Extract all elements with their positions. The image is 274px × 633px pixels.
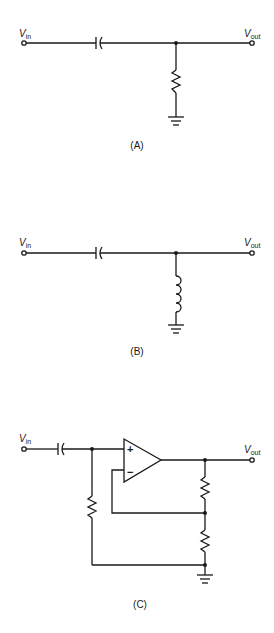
output-terminal — [250, 251, 254, 255]
panel-c: Vin + − Vout — [19, 433, 260, 610]
panel-b: Vin Vout (B) — [19, 237, 260, 357]
vout-label: Vout — [244, 237, 260, 249]
resistor-icon — [88, 496, 96, 518]
input-terminal — [22, 447, 26, 451]
vout-label: Vout — [244, 28, 260, 40]
vout-label: Vout — [244, 444, 260, 456]
panel-a: Vin Vout (A) — [19, 28, 260, 151]
svg-text:+: + — [127, 443, 133, 455]
vin-label: Vin — [19, 28, 31, 40]
vin-label: Vin — [19, 433, 31, 445]
panel-caption: (B) — [130, 346, 143, 357]
panel-caption: (A) — [130, 140, 143, 151]
svg-text:−: − — [127, 466, 133, 478]
circuit-diagrams: Vin Vout (A) Vin Vout — [0, 0, 274, 633]
output-terminal — [250, 41, 254, 45]
input-terminal — [22, 251, 26, 255]
ground-icon — [168, 117, 184, 125]
resistor-icon — [201, 530, 209, 552]
inductor-icon — [176, 276, 181, 312]
resistor-icon — [172, 70, 180, 93]
ground-icon — [168, 325, 184, 333]
ground-icon — [197, 575, 213, 583]
input-terminal — [22, 41, 26, 45]
vin-label: Vin — [19, 237, 31, 249]
op-amp-icon: + − — [124, 439, 161, 482]
resistor-icon — [201, 477, 209, 499]
output-terminal — [250, 458, 254, 462]
panel-caption: (C) — [133, 599, 147, 610]
